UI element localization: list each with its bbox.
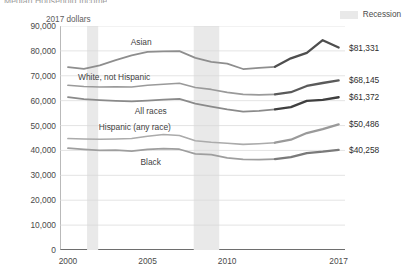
x-axis-tick-label: 2010 [218,256,237,266]
y-axis-tick-label: 90,000 [30,21,56,31]
plot-area [60,26,345,250]
chart-title: Median Household Income [4,0,107,3]
series-label-asian: Asian [131,37,152,47]
y-axis-tick-label: 70,000 [30,71,56,81]
series-lines [60,26,345,250]
end-value-white: $68,145 [349,75,379,85]
x-axis-tick-label: 2000 [59,256,78,266]
y-axis-tick-label: 80,000 [30,46,56,56]
y-axis-tick-label: 60,000 [30,96,56,106]
end-value-all: $61,372 [349,92,379,102]
y-axis-tick-label: 10,000 [30,220,56,230]
end-value-black: $40,258 [349,145,379,155]
series-label-black: Black [141,157,161,167]
y-axis-tick-label: 40,000 [30,145,56,155]
series-label-hispanic: Hispanic (any race) [99,122,171,132]
y-axis-tick-label: 20,000 [30,195,56,205]
series-label-white: White, not Hispanic [78,72,150,82]
chart-container: Median Household Income 2017 dollars Rec… [0,0,407,279]
end-value-asian: $81,331 [349,43,379,53]
y-axis-tick-label: 50,000 [30,121,56,131]
x-axis-tick-label: 2017 [329,256,348,266]
y-axis-tick-label: 0 [51,245,56,255]
end-value-hispanic: $50,486 [349,119,379,129]
chart-legend: Recession [340,10,401,19]
series-label-all: All races [135,106,167,116]
legend-label-recession: Recession [363,10,401,19]
recession-swatch-icon [340,11,358,19]
y-axis-tick-label: 30,000 [30,170,56,180]
x-axis-tick-label: 2005 [138,256,157,266]
